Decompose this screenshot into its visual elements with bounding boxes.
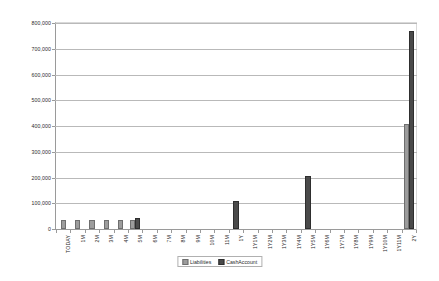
bar-group bbox=[85, 23, 99, 229]
x-tick-label: 2M bbox=[94, 235, 100, 242]
bar-group bbox=[56, 23, 70, 229]
x-tick-mark bbox=[344, 230, 345, 233]
x-tick-label: 1Y3M bbox=[281, 235, 287, 249]
bar-liabilities bbox=[75, 220, 80, 229]
x-tick-label: 2Y bbox=[411, 235, 417, 242]
y-tick-mark bbox=[52, 23, 55, 24]
x-tick-mark bbox=[373, 230, 374, 233]
x-tick-mark bbox=[258, 230, 259, 233]
x-tick-mark bbox=[114, 230, 115, 233]
x-tick-label: 1Y10M bbox=[382, 235, 388, 252]
x-tick-mark bbox=[70, 230, 71, 233]
x-tick-label: 1Y5M bbox=[310, 235, 316, 249]
plot-outer: 0100,000200,000300,000400,000500,000600,… bbox=[55, 22, 417, 230]
bar-liabilities bbox=[104, 220, 109, 229]
x-tick-label: 3M bbox=[108, 235, 114, 242]
bar-group bbox=[142, 23, 156, 229]
bar-group bbox=[402, 23, 416, 229]
bar-group bbox=[214, 23, 228, 229]
x-tick-mark bbox=[99, 230, 100, 233]
bar-cashaccount bbox=[305, 176, 310, 230]
x-tick-mark bbox=[214, 230, 215, 233]
y-tick-label: 700,000 bbox=[32, 46, 51, 52]
x-tick-mark bbox=[330, 230, 331, 233]
x-tick-label: 10M bbox=[209, 235, 215, 245]
x-tick-label: 1Y bbox=[238, 235, 244, 242]
y-tick-mark bbox=[52, 75, 55, 76]
x-tick-label: 1Y7M bbox=[339, 235, 345, 249]
bar-liabilities bbox=[89, 220, 94, 229]
x-tick-mark bbox=[56, 230, 57, 233]
x-tick-mark bbox=[200, 230, 201, 233]
x-tick-mark bbox=[85, 230, 86, 233]
bar-group bbox=[358, 23, 372, 229]
y-tick-mark bbox=[52, 203, 55, 204]
y-tick-mark bbox=[52, 49, 55, 50]
y-tick-label: 200,000 bbox=[32, 175, 51, 181]
x-tick-label: 1M bbox=[80, 235, 86, 242]
bar-group bbox=[186, 23, 200, 229]
y-tick-label: 0 bbox=[48, 226, 51, 232]
bar-liabilities bbox=[61, 220, 66, 229]
x-tick-mark bbox=[315, 230, 316, 233]
y-tick-label: 400,000 bbox=[32, 123, 51, 129]
bar-cashaccount bbox=[233, 201, 238, 229]
x-tick-label: 1Y6M bbox=[324, 235, 330, 249]
x-tick-mark bbox=[272, 230, 273, 233]
x-tick-label: 1Y4M bbox=[296, 235, 302, 249]
x-tick-mark bbox=[142, 230, 143, 233]
bar-group bbox=[99, 23, 113, 229]
chart-container: 0100,000200,000300,000400,000500,000600,… bbox=[0, 0, 439, 281]
legend-item-cashaccount[interactable]: CashAccount bbox=[218, 259, 257, 265]
x-tick-label: 5M bbox=[137, 235, 143, 242]
x-tick-mark bbox=[358, 230, 359, 233]
bar-group bbox=[229, 23, 243, 229]
bar-group bbox=[258, 23, 272, 229]
bar-group bbox=[330, 23, 344, 229]
legend-label: Liabilities bbox=[190, 259, 211, 265]
y-tick-label: 500,000 bbox=[32, 97, 51, 103]
y-tick-mark bbox=[52, 126, 55, 127]
bar-group bbox=[373, 23, 387, 229]
x-tick-label: 7M bbox=[166, 235, 172, 242]
y-tick-label: 800,000 bbox=[32, 20, 51, 26]
x-tick-mark bbox=[157, 230, 158, 233]
x-tick-label: 11M bbox=[224, 235, 230, 245]
legend-label: CashAccount bbox=[226, 259, 257, 265]
bar-group bbox=[315, 23, 329, 229]
legend-swatch-icon bbox=[182, 259, 188, 265]
legend-swatch-icon bbox=[218, 259, 224, 265]
x-tick-label: TODAY bbox=[65, 235, 71, 253]
bars-layer bbox=[56, 23, 416, 229]
bar-group bbox=[200, 23, 214, 229]
x-tick-label: 4M bbox=[123, 235, 129, 242]
bar-liabilities bbox=[118, 220, 123, 229]
x-tick-mark bbox=[171, 230, 172, 233]
y-tick-label: 300,000 bbox=[32, 149, 51, 155]
bar-group bbox=[114, 23, 128, 229]
bar-group bbox=[243, 23, 257, 229]
x-tick-label: 8M bbox=[180, 235, 186, 242]
x-tick-label: 1Y11M bbox=[396, 235, 402, 252]
bar-group bbox=[286, 23, 300, 229]
bar-cashaccount bbox=[409, 31, 414, 229]
x-tick-label: 1Y1M bbox=[252, 235, 258, 249]
chart-legend: LiabilitiesCashAccount bbox=[177, 256, 262, 267]
bar-group bbox=[272, 23, 286, 229]
legend-item-liabilities[interactable]: Liabilities bbox=[182, 259, 211, 265]
x-tick-mark bbox=[186, 230, 187, 233]
y-tick-mark bbox=[52, 100, 55, 101]
bar-group bbox=[128, 23, 142, 229]
bar-group bbox=[171, 23, 185, 229]
y-tick-mark bbox=[52, 229, 55, 230]
bar-group bbox=[344, 23, 358, 229]
x-tick-mark bbox=[128, 230, 129, 233]
x-tick-mark bbox=[301, 230, 302, 233]
x-tick-mark bbox=[402, 230, 403, 233]
x-tick-label: 1Y2M bbox=[267, 235, 273, 249]
y-tick-mark bbox=[52, 152, 55, 153]
y-tick-label: 100,000 bbox=[32, 200, 51, 206]
x-tick-label: 6M bbox=[152, 235, 158, 242]
x-tick-mark bbox=[229, 230, 230, 233]
x-tick-label: 1Y9M bbox=[368, 235, 374, 249]
